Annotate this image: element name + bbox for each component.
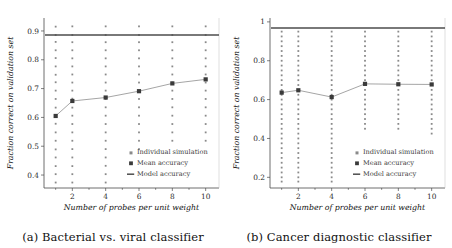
simulation-point — [105, 123, 107, 125]
simulation-point — [55, 81, 57, 83]
simulation-point — [331, 60, 333, 62]
simulation-point — [297, 36, 299, 38]
panel-b: 0.20.40.60.81246810Number of probes per … — [226, 0, 452, 248]
simulation-point — [105, 106, 107, 108]
simulation-point — [331, 152, 333, 154]
y-tick-label: 0.5 — [27, 142, 39, 151]
simulation-point — [281, 84, 283, 86]
simulation-point — [331, 79, 333, 81]
simulation-point — [205, 90, 207, 92]
simulation-point — [171, 57, 173, 59]
y-tick-label: 0.9 — [27, 27, 39, 36]
simulation-point — [281, 79, 283, 81]
legend-mean-label: Mean accuracy — [137, 159, 188, 167]
simulation-point — [397, 31, 399, 33]
simulation-point — [431, 123, 433, 125]
simulation-point — [297, 118, 299, 120]
simulation-point — [55, 74, 57, 76]
simulation-point — [281, 36, 283, 38]
simulation-point — [297, 172, 299, 174]
simulation-point — [171, 98, 173, 100]
simulation-point — [297, 162, 299, 164]
simulation-point — [105, 74, 107, 76]
mean-accuracy-point — [396, 82, 400, 86]
legend: Individual simulationMean accuracyModel … — [127, 148, 208, 178]
simulation-point — [297, 167, 299, 169]
simulation-point — [331, 84, 333, 86]
simulation-point — [138, 66, 140, 68]
simulation-point — [205, 82, 207, 84]
simulation-point — [55, 123, 57, 125]
mean-accuracy-point — [296, 88, 300, 92]
legend-individual-marker — [356, 151, 359, 154]
simulation-point — [71, 140, 73, 142]
x-axis-title: Number of probes per unit weight — [289, 203, 426, 212]
simulation-point — [297, 70, 299, 72]
simulation-point — [138, 131, 140, 133]
simulation-point — [55, 182, 57, 184]
simulation-point — [281, 104, 283, 106]
simulation-point — [171, 131, 173, 133]
simulation-point — [297, 157, 299, 159]
simulation-point — [55, 90, 57, 92]
simulation-point — [281, 133, 283, 135]
simulation-point — [364, 113, 366, 115]
simulation-point — [205, 140, 207, 142]
simulation-point — [281, 99, 283, 101]
simulation-point — [55, 66, 57, 68]
simulation-point — [397, 40, 399, 42]
simulation-point — [105, 131, 107, 133]
simulation-point — [331, 118, 333, 120]
simulation-point — [431, 31, 433, 33]
simulation-point — [105, 57, 107, 59]
simulation-point — [281, 55, 283, 57]
simulation-point — [105, 182, 107, 184]
legend-model-label: Model accuracy — [363, 170, 416, 178]
simulation-point — [205, 115, 207, 117]
simulation-point — [397, 70, 399, 72]
mean-accuracy-point — [363, 82, 367, 86]
simulation-point — [431, 60, 433, 62]
simulation-point — [297, 94, 299, 96]
simulation-point — [297, 128, 299, 130]
simulation-point — [55, 140, 57, 142]
simulation-point — [297, 65, 299, 67]
chart-a: 0.40.50.60.70.80.9246810Number of probes… — [0, 0, 226, 215]
simulation-point — [331, 176, 333, 178]
simulation-point — [281, 152, 283, 154]
plot-area-a: 0.40.50.60.70.80.9246810Number of probes… — [0, 0, 226, 215]
simulation-point — [205, 123, 207, 125]
simulation-point — [297, 152, 299, 154]
simulation-point — [281, 123, 283, 125]
simulation-point — [138, 41, 140, 43]
simulation-point — [397, 45, 399, 47]
simulation-point — [55, 165, 57, 167]
simulation-point — [171, 74, 173, 76]
simulation-point — [431, 79, 433, 81]
simulation-point — [205, 74, 207, 76]
x-tick-label: 8 — [170, 192, 175, 201]
simulation-point — [138, 106, 140, 108]
simulation-point — [397, 104, 399, 106]
simulation-point — [331, 31, 333, 33]
simulation-point — [281, 108, 283, 110]
plot-area-b: 0.20.40.60.81246810Number of probes per … — [226, 0, 452, 215]
legend-mean-label: Mean accuracy — [363, 159, 414, 167]
simulation-point — [71, 25, 73, 27]
simulation-point — [297, 176, 299, 178]
simulation-point — [364, 128, 366, 130]
simulation-point — [331, 157, 333, 159]
simulation-point — [331, 147, 333, 149]
simulation-point — [281, 162, 283, 164]
simulation-point — [71, 74, 73, 76]
simulation-point — [71, 49, 73, 51]
y-tick-label: 0.4 — [27, 171, 39, 180]
simulation-point — [71, 157, 73, 159]
simulation-point — [297, 60, 299, 62]
simulation-point — [281, 74, 283, 76]
simulation-point — [71, 131, 73, 133]
simulation-point — [397, 99, 399, 101]
simulation-point — [331, 40, 333, 42]
simulation-point — [431, 94, 433, 96]
y-axis-title: Fraction correct on validation set — [232, 36, 241, 170]
